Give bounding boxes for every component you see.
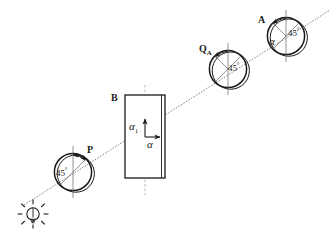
plate-vector-alpha-label: α: [147, 139, 153, 150]
polarizer-P-angle: 45°: [56, 167, 67, 178]
plate-vector-alpha1-label: α1: [129, 121, 138, 135]
polarizer-Q-label: QA: [199, 44, 212, 57]
light-bulb-icon: [18, 200, 49, 229]
optics-ray-diagram: P 45° B α1 α QA 45° A 45° α: [0, 0, 335, 236]
polarizer-A-alpha-label: α: [269, 36, 275, 47]
polarizer-P-label: P: [87, 145, 93, 155]
polarizer-Q-angle: 45°: [228, 62, 239, 73]
polarizer-A-angle: 45°: [288, 27, 299, 38]
birefringent-plate: [125, 85, 165, 195]
diagram-canvas: [0, 0, 335, 236]
plate-label-B: B: [111, 93, 118, 103]
polarizer-A-label: A: [258, 15, 265, 25]
